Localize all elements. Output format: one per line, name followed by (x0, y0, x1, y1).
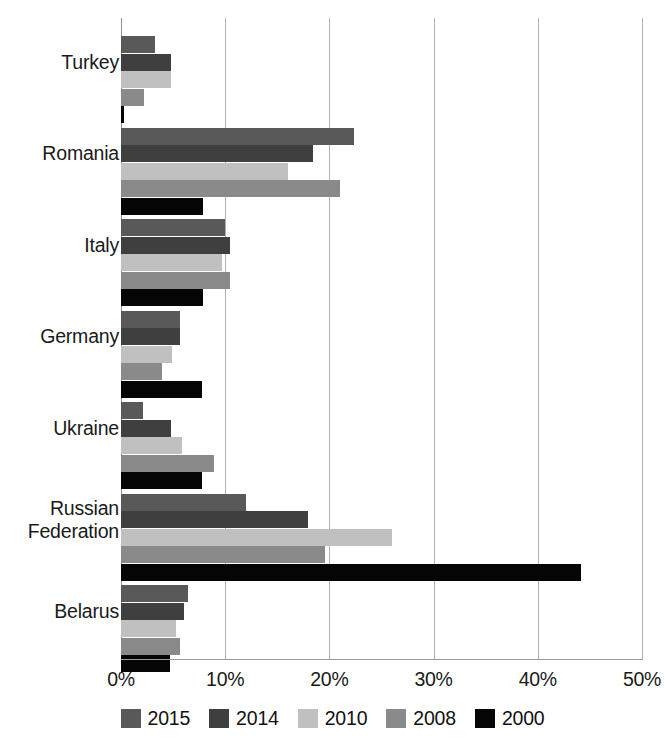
bar-group (121, 311, 642, 399)
legend-label: 2014 (236, 707, 279, 729)
bar[interactable] (121, 272, 230, 289)
bar[interactable] (121, 36, 155, 53)
x-axis-tick-labels: 0%10%20%30%40%50% (0, 666, 665, 696)
bar[interactable] (121, 472, 202, 489)
bar[interactable] (121, 311, 180, 328)
bar[interactable] (121, 89, 144, 106)
bar[interactable] (121, 254, 222, 271)
bar[interactable] (121, 437, 182, 454)
bar[interactable] (121, 219, 225, 236)
bar-group (121, 36, 642, 124)
bar[interactable] (121, 363, 162, 380)
legend-swatch-icon (386, 709, 406, 728)
bar-chart: TurkeyRomaniaItalyGermanyUkraineRussian … (0, 0, 665, 738)
bar[interactable] (121, 328, 180, 345)
x-tick-label: 20% (310, 666, 348, 692)
bar[interactable] (121, 145, 313, 162)
legend-swatch-icon (298, 709, 318, 728)
legend-item[interactable]: 2014 (209, 707, 279, 729)
legend-swatch-icon (121, 709, 141, 728)
bar[interactable] (121, 128, 354, 145)
x-tick-label: 40% (519, 666, 557, 692)
legend-label: 2008 (413, 707, 456, 729)
bar[interactable] (121, 529, 392, 546)
legend-item[interactable]: 2010 (298, 707, 368, 729)
x-tick-label: 0% (107, 666, 135, 692)
bar[interactable] (121, 346, 172, 363)
x-axis-baseline (121, 659, 643, 660)
x-tick-label: 10% (206, 666, 244, 692)
bar[interactable] (121, 603, 184, 620)
bar[interactable] (121, 564, 581, 581)
legend-item[interactable]: 2000 (475, 707, 545, 729)
bar[interactable] (121, 289, 203, 306)
plot-area (121, 18, 642, 660)
category-label: Italy (84, 234, 119, 257)
bar-group (121, 494, 642, 582)
category-label: Ukraine (53, 417, 119, 440)
category-label: Russian Federation (28, 497, 119, 543)
bar[interactable] (121, 638, 180, 655)
bar[interactable] (121, 198, 203, 215)
bar[interactable] (121, 620, 176, 637)
plot-region: TurkeyRomaniaItalyGermanyUkraineRussian … (0, 0, 665, 660)
bar[interactable] (121, 180, 340, 197)
bar-group (121, 219, 642, 307)
x-tick-label: 30% (415, 666, 453, 692)
bar-group (121, 128, 642, 216)
category-label: Romania (42, 142, 119, 165)
legend-item[interactable]: 2008 (386, 707, 456, 729)
bar[interactable] (121, 511, 308, 528)
x-tick-label: 50% (623, 666, 661, 692)
chart-legend: 20152014201020082000 (0, 703, 665, 733)
bar[interactable] (121, 455, 214, 472)
legend-swatch-icon (209, 709, 229, 728)
legend-label: 2010 (325, 707, 368, 729)
bar-group (121, 402, 642, 490)
bar[interactable] (121, 106, 124, 123)
category-label: Belarus (54, 600, 119, 623)
bar[interactable] (121, 381, 202, 398)
bar[interactable] (121, 402, 143, 419)
bar[interactable] (121, 71, 171, 88)
bar[interactable] (121, 54, 171, 71)
legend-swatch-icon (475, 709, 495, 728)
category-label: Germany (40, 325, 119, 348)
gridline-50pct (642, 18, 643, 660)
bar[interactable] (121, 237, 230, 254)
bar[interactable] (121, 420, 171, 437)
bar[interactable] (121, 494, 246, 511)
bar[interactable] (121, 546, 325, 563)
bar[interactable] (121, 163, 288, 180)
legend-item[interactable]: 2015 (121, 707, 191, 729)
legend-label: 2000 (502, 707, 545, 729)
legend-label: 2015 (148, 707, 191, 729)
bar[interactable] (121, 585, 188, 602)
category-label: Turkey (61, 51, 119, 74)
